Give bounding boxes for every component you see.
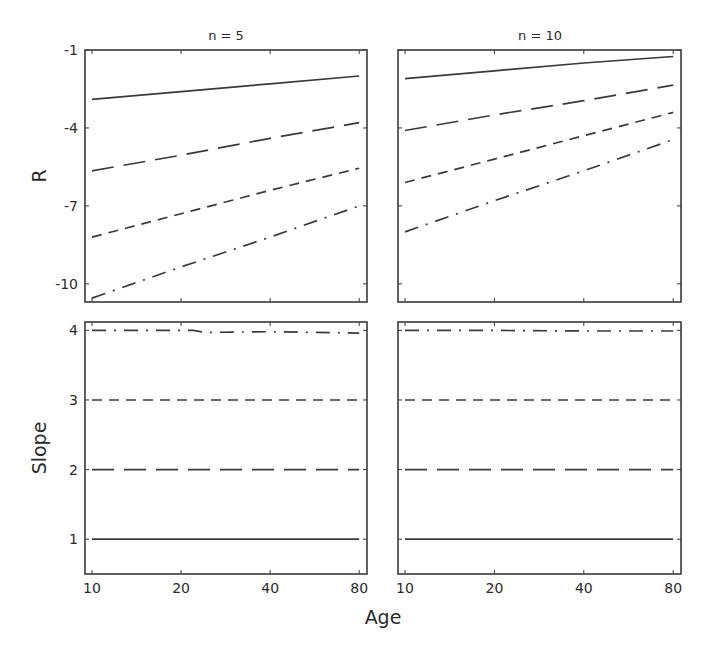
axes-frame <box>398 50 681 302</box>
panel-slope-n10: 10204080 <box>396 322 682 596</box>
chart-figure: -1-4-7-10 102040801234 10204080 n = 5 n … <box>0 0 720 664</box>
ylabel-slope: Slope <box>28 422 50 475</box>
series-line-solid <box>405 57 673 79</box>
x-tick-label: 10 <box>83 580 101 596</box>
series-line-dash-dot <box>405 140 673 232</box>
ylabel-r: R <box>28 169 50 182</box>
y-tick-label: 4 <box>69 322 78 338</box>
chart-canvas: -1-4-7-10 102040801234 10204080 n = 5 n … <box>0 0 720 664</box>
axes-frame <box>398 322 681 574</box>
x-tick-label: 10 <box>396 580 414 596</box>
title-n5: n = 5 <box>208 28 244 43</box>
series-line-solid <box>92 76 359 99</box>
series-line-short-dash <box>92 168 359 237</box>
x-tick-label: 40 <box>261 580 279 596</box>
y-tick-label: -1 <box>64 42 78 58</box>
xlabel-age: Age <box>365 606 402 628</box>
y-tick-label: 1 <box>69 531 78 547</box>
series-line-dash-dot <box>405 330 673 331</box>
y-tick-label: 3 <box>69 392 78 408</box>
x-tick-label: 40 <box>575 580 593 596</box>
series-line-long-dash <box>92 123 359 171</box>
x-tick-label: 20 <box>485 580 503 596</box>
series-line-dash-dot <box>92 206 359 298</box>
axes-frame <box>85 322 367 574</box>
y-tick-label: -10 <box>55 276 78 292</box>
title-n10: n = 10 <box>518 28 562 43</box>
y-tick-label: -7 <box>64 198 78 214</box>
x-tick-label: 20 <box>172 580 190 596</box>
panel-r-n5: -1-4-7-10 <box>55 42 367 302</box>
x-tick-label: 80 <box>350 580 368 596</box>
panel-r-n10 <box>398 50 681 302</box>
y-tick-label: -4 <box>64 120 78 136</box>
series-line-dash-dot <box>92 330 359 333</box>
y-tick-label: 2 <box>69 462 78 478</box>
panel-slope-n5: 102040801234 <box>69 322 368 596</box>
x-tick-label: 80 <box>664 580 682 596</box>
series-line-long-dash <box>405 85 673 130</box>
